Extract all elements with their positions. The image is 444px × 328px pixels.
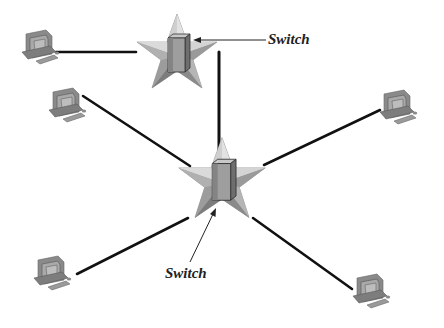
- center-switch-arrowhead: [210, 208, 216, 217]
- link-center-pc-mid-left: [83, 96, 190, 166]
- network-diagram: [0, 0, 444, 328]
- label-arrows: [190, 37, 266, 262]
- computer-icon-mid-left: [49, 88, 86, 122]
- center-switch-label: Switch: [165, 265, 207, 282]
- center-switch-icon: [179, 138, 265, 218]
- computer-icon-right: [380, 90, 417, 124]
- computer-icon-bottom-left: [34, 256, 71, 290]
- link-center-pc-right: [264, 110, 380, 165]
- computer-icon-bottom-right: [353, 274, 390, 308]
- link-center-pc-bottom-right: [253, 218, 352, 289]
- computer-icon-top-left: [22, 30, 59, 64]
- center-switch-arrow: [190, 212, 214, 262]
- top-switch-icon: [137, 14, 217, 88]
- top-switch-label: Switch: [268, 31, 310, 48]
